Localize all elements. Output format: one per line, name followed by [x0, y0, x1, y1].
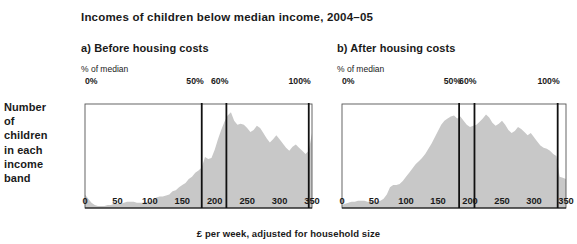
- x-tick-50: 50: [112, 196, 122, 206]
- y-axis-label-line-6: band: [4, 171, 78, 185]
- x-tick-350: 350: [558, 196, 574, 206]
- x-tick-300: 300: [272, 196, 288, 206]
- income-distribution-area: [342, 114, 566, 208]
- x-tick-200: 200: [462, 196, 478, 206]
- x-tick-150: 150: [175, 196, 191, 206]
- x-tick-0: 0: [339, 196, 344, 206]
- plot-area-b: 0%50%60%100% 050100150200250300350: [341, 76, 567, 209]
- x-tick-100: 100: [142, 196, 158, 206]
- page-title: Incomes of children below median income,…: [81, 11, 373, 23]
- percent-label-50pct: 50%: [186, 76, 203, 86]
- percent-label-0pct: 0%: [342, 76, 355, 86]
- percent-label-0pct: 0%: [85, 76, 98, 86]
- x-tick-350: 350: [304, 196, 320, 206]
- x-tick-300: 300: [526, 196, 542, 206]
- x-tick-250: 250: [239, 196, 255, 206]
- x-tick-50: 50: [369, 196, 379, 206]
- y-axis-label-line-3: children: [4, 128, 78, 142]
- percent-label-60pct: 60%: [211, 76, 228, 86]
- percent-label-100pct: 100%: [289, 76, 311, 86]
- x-tick-200: 200: [207, 196, 223, 206]
- y-axis-label: Number of children in each income band: [4, 100, 78, 185]
- x-tick-0: 0: [82, 196, 87, 206]
- panel-b-title: b) After housing costs: [337, 42, 456, 54]
- y-axis-label-line-2: of: [4, 114, 78, 128]
- x-tick-100: 100: [398, 196, 414, 206]
- x-axis-label: £ per week, adjusted for household size: [0, 228, 577, 239]
- panel-b-percent-of-median-caption: % of median: [337, 64, 384, 74]
- panel-a-title: a) Before housing costs: [81, 42, 209, 54]
- income-distribution-area: [85, 112, 312, 208]
- y-axis-label-line-5: income: [4, 157, 78, 171]
- chart-panel-after-housing-costs: 0%50%60%100% 050100150200250300350: [341, 76, 567, 209]
- percent-label-100pct: 100%: [537, 76, 559, 86]
- plot-area-a: 0%50%60%100% 050100150200250300350: [84, 76, 313, 209]
- y-axis-label-line-1: Number: [4, 100, 78, 114]
- x-tick-150: 150: [430, 196, 446, 206]
- percent-label-60pct: 60%: [459, 76, 476, 86]
- chart-a-svg: [84, 76, 313, 209]
- chart-b-svg: [341, 76, 567, 209]
- x-tick-250: 250: [494, 196, 510, 206]
- y-axis-label-line-4: in each: [4, 143, 78, 157]
- panel-a-percent-of-median-caption: % of median: [81, 64, 128, 74]
- chart-panel-before-housing-costs: 0%50%60%100% 050100150200250300350: [84, 76, 313, 209]
